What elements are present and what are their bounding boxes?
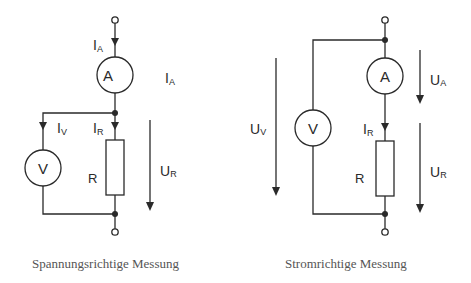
bottom-terminal: [382, 229, 388, 235]
junction-bottom: [382, 211, 388, 217]
caption-right: Stromrichtige Messung: [285, 256, 407, 271]
resistor: [376, 141, 394, 196]
voltmeter-symbol: V: [308, 120, 318, 137]
voltmeter-symbol: V: [38, 160, 48, 177]
resistor-label: R: [88, 171, 97, 186]
current-arrow-ia: [111, 38, 119, 46]
current-arrow-iv: [39, 122, 47, 130]
current-arrow-ir: [111, 122, 119, 130]
label-ur: UR: [430, 164, 447, 180]
label-iv: IV: [57, 120, 67, 137]
label-ia-right: IA: [165, 70, 175, 87]
current-arrow-ir: [381, 123, 389, 131]
caption-left: Spannungsrichtige Messung: [32, 256, 179, 271]
resistor-label: R: [355, 171, 364, 186]
circuit-diagrams: A V R IA IA IV IR UR Spannungsrichtige M…: [0, 0, 471, 283]
label-uv: UV: [250, 121, 266, 137]
label-ia-in: IA: [93, 37, 103, 54]
label-ir: IR: [93, 120, 104, 137]
resistor: [106, 140, 124, 195]
right-circuit-current-correct: [272, 17, 424, 235]
bottom-terminal: [112, 229, 118, 235]
right-circuit-labels: A V R UA UV IR UR: [250, 68, 447, 187]
top-terminal: [112, 17, 118, 23]
label-ur: UR: [160, 163, 177, 179]
ammeter-symbol: A: [103, 67, 113, 84]
left-circuit-voltage-correct: [25, 17, 154, 235]
label-ua: UA: [430, 72, 446, 88]
junction-bottom: [112, 211, 118, 217]
label-ir: IR: [363, 121, 374, 138]
top-terminal: [382, 17, 388, 23]
ammeter-symbol: A: [380, 68, 390, 85]
